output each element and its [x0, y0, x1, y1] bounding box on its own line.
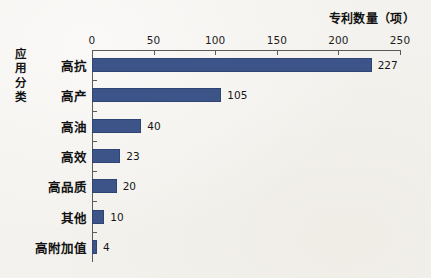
bar-value-label: 40 — [147, 120, 160, 131]
x-tick-label: 0 — [89, 34, 96, 46]
y-tick — [92, 201, 97, 202]
x-tick-label: 250 — [390, 34, 410, 46]
y-tick — [92, 141, 97, 142]
category-label: 高抗 — [61, 56, 87, 75]
bar — [92, 58, 372, 72]
x-tick — [400, 50, 401, 55]
category-label: 高产 — [61, 86, 87, 105]
bar — [92, 119, 141, 133]
y-axis-title: 应用分类 — [10, 47, 30, 105]
y-tick — [92, 232, 97, 233]
bar — [92, 210, 104, 224]
x-tick — [277, 50, 278, 55]
bar-value-label: 227 — [378, 60, 398, 71]
bar — [92, 88, 221, 102]
bar-chart: 专利数量（项） 应用分类 050100150200250 22710540232… — [0, 0, 431, 278]
x-axis-title: 专利数量（项） — [329, 9, 415, 26]
bar — [92, 179, 117, 193]
x-tick — [154, 50, 155, 55]
bar-value-label: 10 — [110, 211, 123, 222]
x-tick — [215, 50, 216, 55]
bar — [92, 240, 97, 254]
x-tick — [338, 50, 339, 55]
y-tick — [92, 111, 97, 112]
category-label: 高效 — [61, 147, 87, 166]
y-tick — [92, 171, 97, 172]
category-label: 高品质 — [48, 177, 87, 196]
category-label: 高油 — [61, 116, 87, 135]
y-tick — [92, 80, 97, 81]
x-tick-label: 50 — [147, 34, 161, 46]
bar — [92, 149, 120, 163]
bar-value-label: 4 — [103, 242, 110, 253]
x-tick — [92, 50, 93, 55]
bar-value-label: 23 — [126, 151, 139, 162]
category-label: 高附加值 — [35, 237, 87, 256]
x-axis-line — [92, 50, 400, 51]
x-tick-label: 100 — [205, 34, 225, 46]
bar-value-label: 105 — [227, 90, 247, 101]
plot-area: 050100150200250 227105402320104 — [92, 50, 400, 262]
x-tick-label: 150 — [267, 34, 287, 46]
category-label: 其他 — [61, 207, 87, 226]
x-tick-label: 200 — [328, 34, 348, 46]
bar-value-label: 20 — [123, 181, 136, 192]
